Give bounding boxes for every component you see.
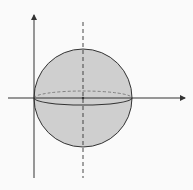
center-point (82, 97, 84, 99)
sphere-diagram (0, 0, 193, 190)
